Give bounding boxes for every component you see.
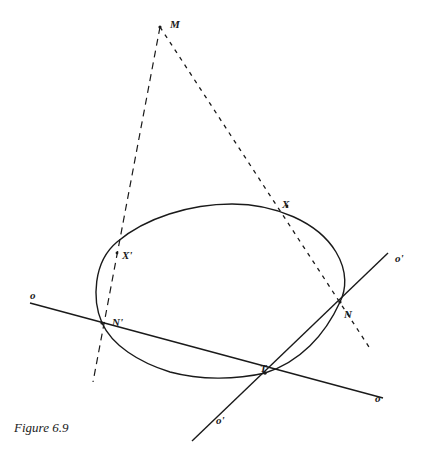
- figure-diagram: M X X' N' N T o o o' o': [0, 0, 424, 461]
- point-n: [338, 300, 341, 303]
- label-m: M: [169, 18, 181, 30]
- line-o-prime: [192, 253, 388, 441]
- label-o-prime-start: o': [395, 252, 404, 264]
- label-o-start: o: [30, 289, 36, 301]
- label-n: N: [343, 308, 353, 320]
- figure-caption: Figure 6.9: [14, 420, 68, 436]
- label-n-prime: N': [111, 316, 123, 328]
- label-o-prime-end: o': [216, 414, 225, 426]
- ellipse-conic: [96, 204, 345, 378]
- line-o: [30, 303, 383, 398]
- point-m: [158, 25, 161, 28]
- label-x-prime: X': [121, 249, 132, 261]
- label-x: X: [281, 198, 290, 210]
- label-o-end: o: [375, 392, 381, 404]
- point-n-prime: [100, 321, 103, 324]
- point-x-prime: [116, 252, 119, 255]
- dashed-line-m-n: [160, 27, 369, 347]
